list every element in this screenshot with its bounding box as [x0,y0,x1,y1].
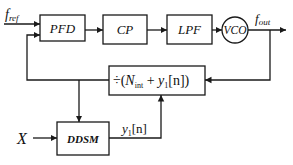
ddsm-label: DDSM [66,133,100,145]
divider-label: ÷(Nint + y1[n]) [113,73,190,90]
div-to-pfd-wire [27,35,109,80]
x-label: X [16,130,28,147]
pfd-label: PFD [49,21,76,36]
feedback-wire [205,30,270,80]
y1-label: y1[n] [120,121,147,138]
pll-block-diagram: fref PFD CP LPF VCO fout ÷(Nint + y1[n])… [0,0,293,165]
lpf-label: LPF [177,22,202,37]
cp-label: CP [117,22,134,37]
fref-label: fref [5,7,20,23]
vco-label: VCO [224,24,248,36]
fout-label: fout [255,11,271,27]
